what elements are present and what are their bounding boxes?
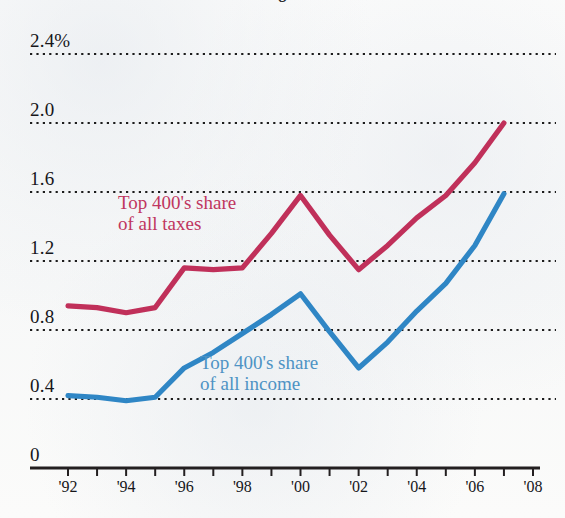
- x-tick-label: '08: [524, 478, 543, 496]
- y-tick-label: 2.4%: [30, 30, 70, 52]
- income-annotation-line2: of all income: [200, 373, 318, 394]
- gridlines: [30, 54, 556, 399]
- x-tick-label: '00: [291, 478, 310, 496]
- y-tick-label: 0.4: [30, 375, 54, 397]
- y-tick-label: 0.8: [30, 306, 54, 328]
- x-tick-label: '96: [175, 478, 194, 496]
- y-tick-label: 1.6: [30, 168, 54, 190]
- series-annotation-income: Top 400's share of all income: [200, 352, 318, 395]
- x-tick-label: '06: [465, 478, 484, 496]
- x-tick-label: '04: [407, 478, 426, 496]
- x-tick-label: '02: [349, 478, 368, 496]
- plot-area: [0, 0, 565, 518]
- y-tick-label: 1.2: [30, 237, 54, 259]
- taxes-annotation-line2: of all taxes: [118, 213, 236, 234]
- taxes-annotation-line1: Top 400's share: [118, 192, 236, 213]
- x-tick-label: '92: [59, 478, 78, 496]
- y-tick-label: 2.0: [30, 99, 54, 121]
- x-tick-label: '94: [117, 478, 136, 496]
- x-tick-label: '98: [233, 478, 252, 496]
- y-tick-label: 0: [30, 444, 40, 466]
- chart-figure: g 2.4%2.01.61.20.80.40 '92'94'96'98'00'0…: [0, 0, 565, 518]
- income-annotation-line1: Top 400's share: [200, 352, 318, 373]
- series-annotation-taxes: Top 400's share of all taxes: [118, 192, 236, 235]
